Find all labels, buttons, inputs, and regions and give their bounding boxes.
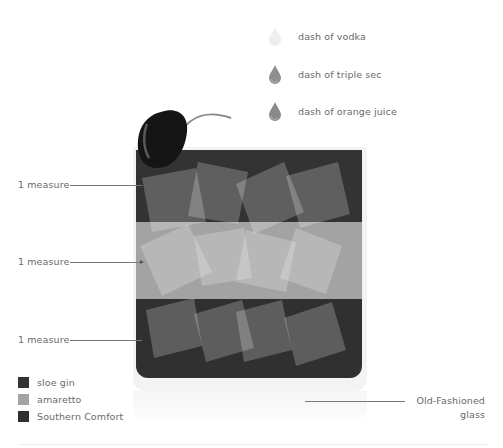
ice-cubes — [136, 150, 362, 378]
glass-label: Old-Fashioned glass — [416, 395, 485, 420]
leader-line — [70, 262, 143, 263]
legend-item-southern-comfort: Southern Comfort — [18, 408, 123, 425]
cherry-icon — [133, 104, 243, 174]
legend-swatch — [18, 411, 29, 422]
drop-icon — [268, 26, 282, 46]
glass-label-line1: Old-Fashioned — [416, 395, 485, 406]
garnish-vodka: dash of vodka — [268, 26, 366, 46]
glass-leader-line — [305, 401, 405, 402]
legend-label: Southern Comfort — [37, 411, 123, 422]
bottom-divider — [18, 444, 488, 445]
garnish-label: dash of vodka — [298, 31, 366, 42]
legend: sloe gin amaretto Southern Comfort — [18, 374, 123, 425]
garnish-triple-sec: dash of triple sec — [268, 64, 382, 84]
glass-label-line2: glass — [416, 409, 485, 420]
glass-base — [133, 391, 367, 419]
drop-icon — [268, 64, 282, 84]
leader-line — [70, 340, 142, 341]
glass-liquid — [136, 150, 362, 378]
legend-label: sloe gin — [37, 377, 75, 388]
measure-label-2: 1 measure — [18, 256, 69, 267]
measure-label-1: 1 measure — [18, 179, 69, 190]
measure-label-3: 1 measure — [18, 334, 69, 345]
leader-line — [70, 185, 142, 186]
legend-item-sloe-gin: sloe gin — [18, 374, 123, 391]
drop-icon — [268, 101, 282, 121]
legend-label: amaretto — [37, 394, 82, 405]
garnish-orange-juice: dash of orange juice — [268, 101, 397, 121]
garnish-label: dash of triple sec — [298, 69, 382, 80]
legend-item-amaretto: amaretto — [18, 391, 123, 408]
legend-swatch — [18, 394, 29, 405]
legend-swatch — [18, 377, 29, 388]
garnish-label: dash of orange juice — [298, 106, 397, 117]
